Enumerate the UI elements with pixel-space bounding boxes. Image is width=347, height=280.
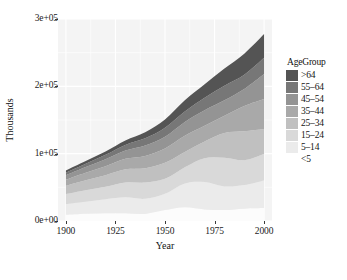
y-axis-title: Thousands [4,98,15,141]
legend-item[interactable]: 15–24 [286,129,346,141]
x-tick-mark [165,221,166,224]
plot-area [58,19,272,221]
legend-swatch [286,82,298,93]
legend-label: <5 [301,154,311,164]
legend-title: AgeGroup [287,57,346,67]
legend-label: >64 [301,70,315,80]
legend-item[interactable]: 35–44 [286,105,346,117]
legend-item[interactable]: 55–64 [286,81,346,93]
x-tick-label: 1925 [106,226,125,236]
y-tick-label: 0e+00 [35,215,58,225]
legend: AgeGroup >6455–6445–5435–4425–3415–245–1… [286,57,346,165]
x-tick-mark [215,221,216,224]
x-tick-mark [115,221,116,224]
legend-label: 5–14 [301,142,319,152]
legend-label: 55–64 [301,82,324,92]
legend-swatch [286,94,298,105]
legend-swatch [286,106,298,117]
legend-item[interactable]: <5 [286,153,346,165]
legend-item[interactable]: 25–34 [286,117,346,129]
x-tick-label: 1900 [57,226,76,236]
legend-label: 15–24 [301,130,324,140]
legend-item[interactable]: 45–54 [286,93,346,105]
legend-swatch [286,142,298,153]
stacked-area-chart: Thousands 0e+001e+052e+053e+05 190019251… [0,0,347,280]
legend-item[interactable]: 5–14 [286,141,346,153]
x-tick-label: 2000 [255,226,274,236]
y-tick-label: 3e+05 [35,13,58,23]
plot-panel [58,19,272,221]
x-tick-label: 1975 [205,226,224,236]
legend-swatch [286,118,298,129]
legend-item[interactable]: >64 [286,69,346,81]
y-tick-label: 1e+05 [35,148,58,158]
y-tick-mark [55,221,58,222]
legend-swatch [286,130,298,141]
legend-swatch [286,154,298,165]
y-tick-label: 2e+05 [35,80,58,90]
legend-label: 25–34 [301,118,324,128]
x-axis-title: Year [58,240,272,251]
x-tick-label: 1950 [156,226,175,236]
legend-label: 35–44 [301,106,324,116]
x-tick-mark [264,221,265,224]
legend-label: 45–54 [301,94,324,104]
legend-swatch [286,70,298,81]
x-tick-mark [66,221,67,224]
legend-entries: >6455–6445–5435–4425–3415–245–14<5 [286,69,346,165]
